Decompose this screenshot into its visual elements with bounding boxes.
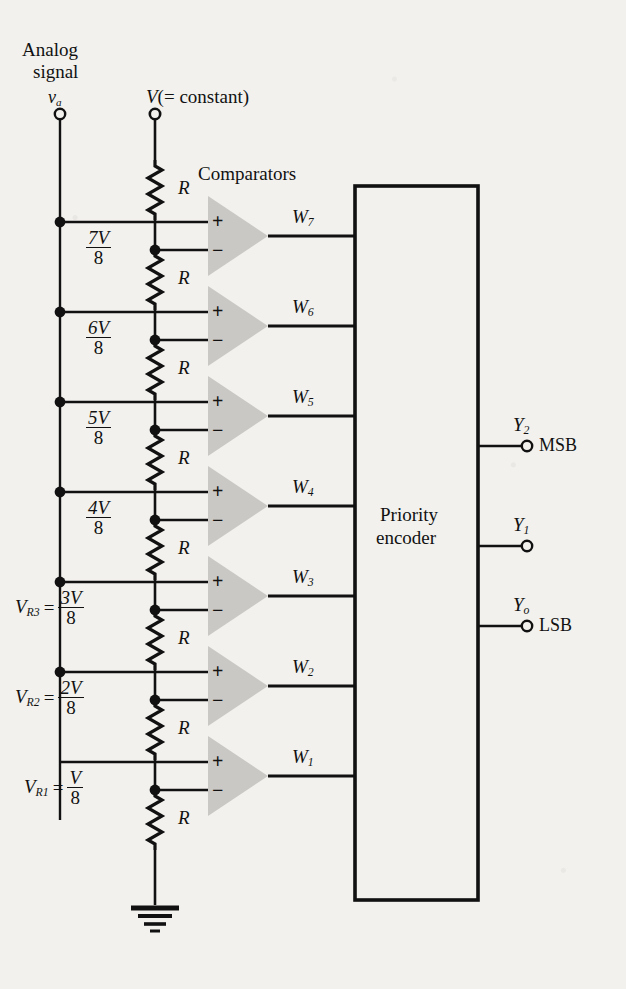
resistor-r8 <box>148 160 162 220</box>
comparator-plus-4: + <box>212 481 223 501</box>
comparator-output-label-1: W1 <box>292 747 314 769</box>
output-terminal-y2 <box>522 441 532 451</box>
junction-dot-tap-4 <box>150 515 161 526</box>
output-line-y2 <box>478 441 532 451</box>
resistor-label-r2: R <box>178 718 190 737</box>
comparator-minus-2: − <box>212 690 223 710</box>
comparator-plus-6: + <box>212 301 223 321</box>
comparator-output-label-6: W6 <box>292 297 314 319</box>
output-line-y1 <box>478 541 532 551</box>
comparator-minus-6: − <box>212 330 223 350</box>
comparator-output-label-2: W2 <box>292 657 314 679</box>
output-line-y0 <box>478 621 532 631</box>
junction-dot-analog-6 <box>55 307 66 318</box>
junction-dot-analog-5 <box>55 397 66 408</box>
junction-dot-tap-1 <box>150 785 161 796</box>
resistor-r5 <box>148 430 162 490</box>
tap-voltage-3: VR3 = 3V8 <box>15 588 84 628</box>
tap-voltage-5: 5V8 <box>86 408 111 448</box>
output-tag-msb: MSB <box>539 436 577 454</box>
junction-dot-tap-7 <box>150 245 161 256</box>
comparator-minus-3: − <box>212 600 223 620</box>
comparator-plus-7: + <box>212 211 223 231</box>
resistor-label-r8: R <box>178 178 190 197</box>
resistor-r2 <box>148 700 162 760</box>
junction-dot-analog-7 <box>55 217 66 228</box>
resistor-label-r4: R <box>178 538 190 557</box>
output-terminal-y0 <box>522 621 532 631</box>
priority-encoder-label-line1: Priority <box>380 505 438 524</box>
comparator-output-label-5: W5 <box>292 387 314 409</box>
comparator-output-label-4: W4 <box>292 477 314 499</box>
comparator-output-label-7: W7 <box>292 207 314 229</box>
analog-input-terminal <box>55 109 65 119</box>
comparator-plus-3: + <box>212 571 223 591</box>
tap-voltage-7: 7V8 <box>86 228 111 268</box>
output-label-y2: Y2 <box>513 415 529 437</box>
priority-encoder-label-line2: encoder <box>376 528 436 547</box>
resistor-label-r6: R <box>178 358 190 377</box>
output-label-y0: Yo <box>513 595 529 617</box>
resistor-label-r7: R <box>178 268 190 287</box>
comparator-triangle-4 <box>208 466 268 546</box>
tap-voltage-2: VR2 = 2V8 <box>15 678 84 718</box>
resistor-r7 <box>148 250 162 310</box>
junction-dot-analog-3 <box>55 577 66 588</box>
junction-dot-analog-2 <box>55 667 66 678</box>
analog-signal-title-line2: signal <box>33 62 78 81</box>
resistor-r1 <box>148 790 162 850</box>
comparator-minus-7: − <box>212 240 223 260</box>
comparator-triangle-6 <box>208 286 268 366</box>
comparator-triangle-1 <box>208 736 268 816</box>
tap-voltage-1: VR1 = V8 <box>24 768 83 808</box>
comparator-minus-4: − <box>212 510 223 530</box>
comparator-triangle-3 <box>208 556 268 636</box>
junction-dot-analog-4 <box>55 487 66 498</box>
output-terminal-y1 <box>522 541 532 551</box>
tap-voltage-4: 4V8 <box>86 498 111 538</box>
comparator-plus-5: + <box>212 391 223 411</box>
resistor-r6 <box>148 340 162 400</box>
junction-dot-tap-2 <box>150 695 161 706</box>
comparators-label: Comparators <box>198 164 296 183</box>
output-tag-lsb: LSB <box>539 616 572 634</box>
figure-canvas: Analog signal va V(= constant) Comparato… <box>0 0 626 989</box>
comparator-plus-2: + <box>212 661 223 681</box>
junction-dot-tap-6 <box>150 335 161 346</box>
reference-label: V(= constant) <box>146 87 249 106</box>
comparator-triangle-7 <box>208 196 268 276</box>
comparator-minus-5: − <box>212 420 223 440</box>
ground-symbol <box>131 908 179 931</box>
junction-dot-tap-5 <box>150 425 161 436</box>
analog-signal-title-line1: Analog <box>22 40 78 59</box>
comparator-plus-1: + <box>212 751 223 771</box>
comparator-output-label-3: W3 <box>292 567 314 589</box>
resistor-label-r3: R <box>178 628 190 647</box>
resistor-label-r5: R <box>178 448 190 467</box>
resistor-label-r1: R <box>178 808 190 827</box>
resistor-r3 <box>148 610 162 670</box>
analog-input-symbol: va <box>48 88 62 108</box>
resistor-r4 <box>148 520 162 580</box>
reference-input-terminal <box>150 109 160 119</box>
junction-dot-tap-3 <box>150 605 161 616</box>
tap-voltage-6: 6V8 <box>86 318 111 358</box>
comparator-triangle-2 <box>208 646 268 726</box>
comparator-triangle-5 <box>208 376 268 456</box>
comparator-minus-1: − <box>212 780 223 800</box>
output-label-y1: Y1 <box>513 515 529 537</box>
